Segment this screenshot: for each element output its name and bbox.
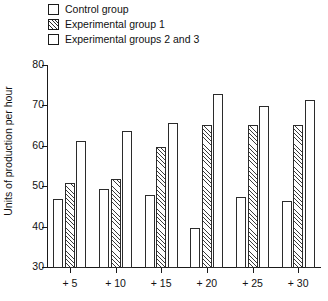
x-tick-label: + 25 [242, 277, 263, 289]
x-tick-mark [298, 268, 299, 273]
y-tick-label: 40 [32, 220, 44, 233]
y-axis-title-text: Units of production per hour [2, 86, 14, 216]
y-tick: 80 [47, 65, 48, 66]
bar [248, 125, 258, 268]
x-tick-label: + 20 [196, 277, 217, 289]
bar [282, 201, 292, 268]
bar [213, 94, 223, 268]
open-square-icon [48, 4, 59, 15]
x-tick-mark [161, 268, 162, 273]
bar [202, 125, 212, 268]
x-tick-mark [116, 268, 117, 273]
bar [190, 228, 200, 268]
legend-item-experimental-groups-2-and-3: Experimental groups 2 and 3 [48, 32, 288, 46]
y-tick: 30 [47, 267, 48, 268]
x-tick-label: + 5 [62, 277, 77, 289]
x-tick-mark [207, 268, 208, 273]
y-tick: 70 [47, 105, 48, 106]
y-axis-line [47, 66, 48, 268]
x-axis-line [47, 267, 321, 268]
bar [236, 197, 246, 268]
x-tick-mark [253, 268, 254, 273]
bar [156, 147, 166, 268]
bar [293, 125, 303, 268]
plot-area: 304050607080 + 5+ 10+ 15+ 20+ 25+ 30 [47, 66, 321, 268]
y-tick-label: 70 [32, 98, 44, 111]
bar [111, 179, 121, 268]
legend-label: Control group [65, 3, 129, 15]
x-tick-mark [70, 268, 71, 273]
bar [76, 141, 86, 268]
y-tick-label: 60 [32, 139, 44, 152]
bar [145, 195, 155, 268]
bar [122, 131, 132, 268]
bar [53, 199, 63, 268]
bar-chart-figure: Control group Experimental group 1 Exper… [0, 0, 328, 301]
open-square-icon [48, 34, 59, 45]
legend-item-control-group: Control group [48, 2, 288, 16]
y-tick: 40 [47, 227, 48, 228]
x-tick-label: + 15 [151, 277, 172, 289]
bar [99, 189, 109, 268]
bar [305, 100, 315, 268]
bar [259, 106, 269, 268]
y-axis-title: Units of production per hour [0, 0, 16, 301]
bar [65, 183, 75, 268]
chart-legend: Control group Experimental group 1 Exper… [48, 2, 288, 47]
x-tick-label: + 10 [105, 277, 126, 289]
y-tick: 50 [47, 186, 48, 187]
y-tick: 60 [47, 146, 48, 147]
legend-label: Experimental groups 2 and 3 [65, 33, 199, 45]
legend-item-experimental-group-1: Experimental group 1 [48, 17, 288, 31]
y-tick-label: 30 [32, 260, 44, 273]
legend-label: Experimental group 1 [65, 18, 165, 30]
y-tick-label: 50 [32, 179, 44, 192]
bar [168, 123, 178, 268]
x-tick-label: + 30 [288, 277, 309, 289]
y-tick-label: 80 [32, 58, 44, 71]
hatched-square-icon [48, 19, 59, 30]
